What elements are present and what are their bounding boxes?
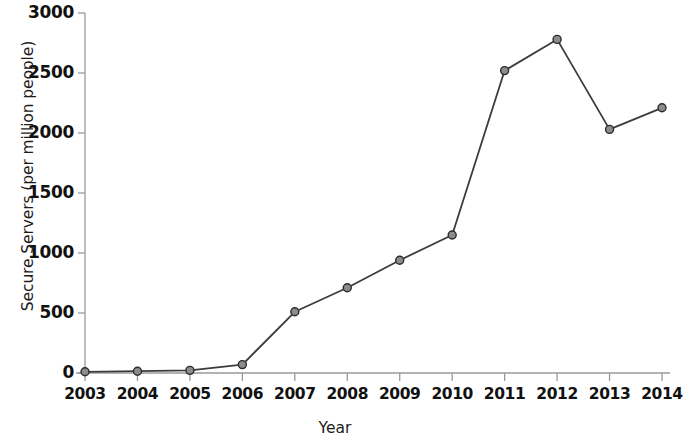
x-axis-title: Year	[0, 419, 670, 437]
x-axis-tick-label: 2014	[630, 385, 687, 403]
